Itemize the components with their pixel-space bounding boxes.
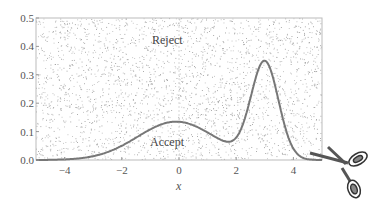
svg-text:0.5: 0.5 [20,12,34,24]
accept-label: Accept [150,135,185,149]
svg-text:−2: −2 [116,164,128,176]
scissors-icon [310,147,369,200]
svg-text:0.2: 0.2 [20,97,34,109]
svg-text:0.0: 0.0 [20,154,34,166]
svg-text:−4: −4 [59,164,71,176]
svg-text:0.1: 0.1 [20,126,34,138]
svg-text:0.3: 0.3 [20,69,34,81]
reject-label: Reject [152,33,183,47]
svg-text:4: 4 [291,164,297,176]
svg-text:0.4: 0.4 [20,40,34,52]
svg-text:0: 0 [176,164,182,176]
rejection-sampling-chart: 0.00.10.20.30.40.5 −4−2024 Reject Accept… [0,0,381,209]
x-axis-label: x [175,179,182,193]
svg-text:2: 2 [233,164,239,176]
